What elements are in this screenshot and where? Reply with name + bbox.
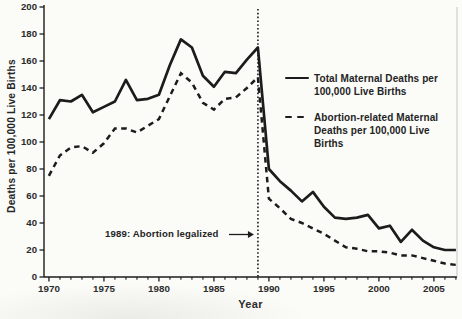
y-tick-label: 20 — [26, 244, 37, 255]
y-tick-label: 200 — [21, 1, 37, 12]
y-tick-label: 120 — [21, 109, 37, 120]
x-axis-title: Year — [200, 298, 301, 310]
legend-label-abortion-related: Abortion-related Maternal Deaths per 100… — [314, 111, 456, 150]
x-tick-label: 2000 — [368, 283, 390, 294]
x-tick-label: 1990 — [258, 283, 280, 294]
dashed-line-swatch-icon — [285, 111, 314, 118]
y-tick-label: 160 — [21, 55, 37, 66]
y-tick-label: 80 — [26, 163, 37, 174]
legend: Total Maternal Deaths per 100,000 Live B… — [285, 72, 457, 150]
y-tick-label: 180 — [21, 28, 37, 39]
annotation-1989-abortion-legalized: 1989: Abortion legalized — [105, 228, 219, 239]
y-tick-label: 100 — [21, 136, 37, 147]
y-tick-label: 60 — [26, 190, 37, 201]
y-tick-label: 40 — [26, 217, 37, 228]
x-tick-label: 2005 — [423, 283, 445, 294]
legend-item-total-maternal-deaths: Total Maternal Deaths per 100,000 Live B… — [285, 72, 457, 98]
y-axis-title: Deaths per 100,000 Live Births — [6, 59, 17, 213]
y-tick-label: 0 — [32, 271, 37, 282]
x-tick-label: 1995 — [313, 283, 335, 294]
y-tick-label: 140 — [21, 82, 37, 93]
maternal-mortality-figure: 0204060801001201401601802001970197519801… — [0, 0, 462, 319]
x-tick-label: 1970 — [38, 283, 60, 294]
annotation-arrowhead-icon — [248, 231, 254, 238]
x-tick-label: 1975 — [93, 283, 115, 294]
x-tick-label: 1980 — [148, 283, 170, 294]
x-tick-label: 1985 — [203, 283, 225, 294]
solid-line-swatch-icon — [285, 72, 314, 79]
chart-canvas: 0204060801001201401601802001970197519801… — [0, 0, 462, 319]
legend-item-abortion-related-deaths: Abortion-related Maternal Deaths per 100… — [285, 111, 457, 150]
legend-label-total: Total Maternal Deaths per 100,000 Live B… — [314, 72, 456, 98]
